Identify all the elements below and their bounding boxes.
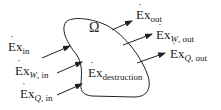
arrow-ex-in	[42, 46, 70, 58]
exergy-balance-diagram: Ω ˙Exin ˙ExW, in ˙ExQ, in ˙Exdestruction…	[0, 0, 221, 110]
region-omega-label: Ω	[89, 20, 99, 36]
label-ex-destruction: ˙Exdestruction	[88, 66, 142, 82]
arrow-ex-w-in	[57, 62, 82, 73]
arrow-ex-q-in	[57, 84, 82, 95]
arrow-ex-w-out	[123, 34, 152, 45]
arrow-ex-out	[112, 21, 132, 30]
label-ex-in: ˙Exin	[8, 40, 29, 56]
label-ex-q-out: ˙ExQ, out	[170, 47, 207, 63]
label-ex-q-in: ˙ExQ, in	[20, 87, 52, 103]
arrow-ex-q-out	[137, 53, 165, 63]
label-ex-w-in: ˙ExW, in	[15, 64, 48, 80]
control-volume-boundary	[64, 19, 149, 97]
